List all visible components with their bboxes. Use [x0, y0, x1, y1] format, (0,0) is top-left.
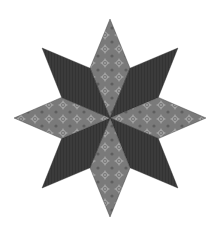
star-quilt-block — [0, 0, 221, 234]
star-patches — [14, 19, 206, 217]
